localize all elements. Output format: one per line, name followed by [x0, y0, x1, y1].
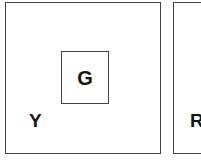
panel-left[interactable]: G Y [5, 2, 161, 154]
panel-right[interactable]: R [173, 2, 201, 154]
figure-canvas: G Y R [0, 0, 201, 160]
inner-box-label-g: G [62, 52, 108, 103]
inner-box-g[interactable]: G [61, 51, 109, 104]
panel-left-corner-label: Y [29, 111, 42, 130]
panel-right-corner-label: R [190, 111, 201, 130]
